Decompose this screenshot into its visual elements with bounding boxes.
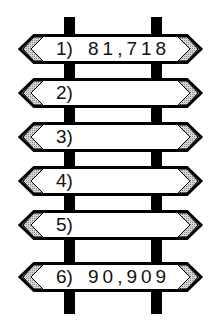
sign-board-shape	[0, 166, 215, 196]
sign-number-label: 5)	[56, 214, 73, 236]
sign-number-label: 6)	[56, 266, 73, 288]
sign-6: 6)90,909	[0, 262, 215, 292]
sign-2: 2)	[0, 78, 215, 108]
sign-board-shape	[0, 210, 215, 240]
sign-5: 5)	[0, 210, 215, 240]
sign-number-label: 3)	[56, 126, 73, 148]
sign-number-label: 1)	[56, 38, 73, 60]
sign-board-shape	[0, 78, 215, 108]
sign-number-label: 4)	[56, 170, 73, 192]
sign-board-shape	[0, 122, 215, 152]
sign-value: 81,718	[88, 38, 170, 60]
sign-3: 3)	[0, 122, 215, 152]
sign-value: 90,909	[88, 266, 170, 288]
sign-number-label: 2)	[56, 82, 73, 104]
sign-4: 4)	[0, 166, 215, 196]
sign-1: 1)81,718	[0, 34, 215, 64]
